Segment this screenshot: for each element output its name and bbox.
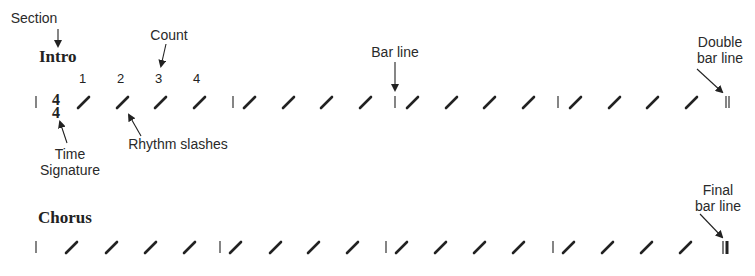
bar-line-annotation: Bar line: [358, 44, 432, 60]
annotation-arrows: [58, 29, 722, 237]
count-2: 2: [117, 71, 124, 86]
rhythm-slash-icon: [396, 242, 524, 253]
count-3: 3: [155, 71, 162, 86]
rhythm-slashes-arrow: [129, 115, 141, 136]
time-signature-bottom: 4: [49, 106, 63, 119]
time-signature-arrow: [60, 122, 67, 143]
rhythm-slash-icon: [570, 97, 697, 108]
count-4: 4: [193, 71, 200, 86]
final-bar-line-label-1: Final: [686, 182, 750, 198]
double-bar-line-arrow: [697, 69, 722, 92]
count-1: 1: [79, 71, 86, 86]
final-bar-line-label-2: bar line: [686, 198, 750, 214]
final-bar-line: [723, 241, 727, 254]
count-arrow: [161, 44, 166, 66]
rhythm-slash-icon: [407, 97, 534, 108]
section-title-chorus: Chorus: [38, 208, 92, 228]
time-signature-label-1: Time: [34, 146, 106, 162]
rhythm-slash-icon: [244, 97, 371, 108]
rhythm-slash-icon: [563, 242, 691, 253]
time-signature-label-2: Signature: [34, 162, 106, 178]
double-bar-line-annotation: Double bar line: [690, 34, 750, 66]
time-signature: 4 4: [49, 93, 63, 119]
final-bar-line-arrow: [700, 214, 722, 237]
double-bar-line: [726, 96, 729, 108]
rhythm-slashes-annotation: Rhythm slashes: [122, 136, 234, 152]
section-title-intro: Intro: [39, 47, 76, 67]
notation-graphics: [0, 0, 755, 276]
rhythm-slash-icon: [78, 97, 205, 108]
final-bar-line-annotation: Final bar line: [686, 182, 750, 214]
rhythm-slash-icon: [230, 242, 358, 253]
rhythm-slash-icon: [66, 242, 195, 253]
intro-staff: [36, 96, 729, 108]
chord-chart-diagram: Section Intro Count 1 2 3 4 4 4 Bar line…: [0, 0, 755, 276]
time-signature-annotation: Time Signature: [34, 146, 106, 178]
double-bar-line-label-2: bar line: [690, 50, 750, 66]
double-bar-line-label-1: Double: [690, 34, 750, 50]
chorus-staff: [36, 241, 727, 254]
count-annotation: Count: [144, 27, 194, 43]
section-annotation: Section: [6, 10, 62, 26]
